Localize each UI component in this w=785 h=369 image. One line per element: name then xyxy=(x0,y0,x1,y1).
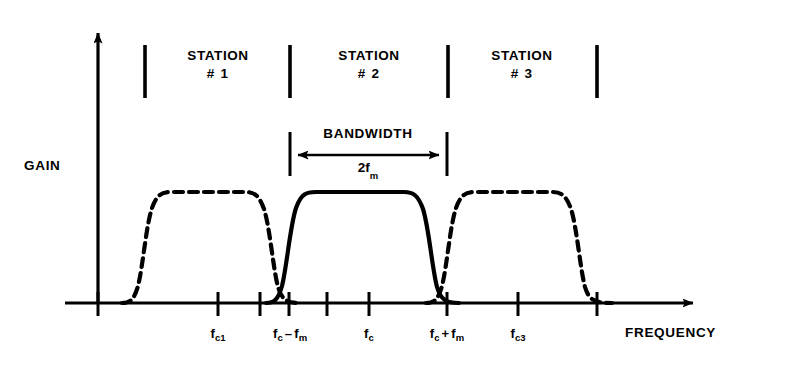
bandwidth-value-label: 2fm xyxy=(358,160,378,179)
station-1-number: # 1 xyxy=(187,66,248,82)
tick-fcmfm-sub2: m xyxy=(299,332,307,343)
tick-label-fc3: fc3 xyxy=(510,327,525,342)
station-1-name: STATION xyxy=(187,48,248,63)
tick-fc1-sub: c1 xyxy=(215,332,226,343)
tick-label-fc1: fc1 xyxy=(210,327,225,342)
tick-fc3-main: f xyxy=(510,326,515,341)
station-3-name: STATION xyxy=(491,48,552,63)
passband-curve-station-2 xyxy=(266,192,459,303)
station-label-3: STATION # 3 xyxy=(491,48,552,81)
tick-fcmfm-sub: c xyxy=(277,332,282,343)
tick-label-fc: fc xyxy=(364,327,374,342)
x-axis-label: FREQUENCY xyxy=(625,325,716,341)
passband-curve-station-3 xyxy=(426,192,612,303)
tick-fcmfm-operator: – xyxy=(283,326,294,341)
tick-fc3-sub: c3 xyxy=(515,332,526,343)
tick-fcpfm-sub2: m xyxy=(456,332,464,343)
bandwidth-title: BANDWIDTH xyxy=(323,126,413,142)
station-label-1: STATION # 1 xyxy=(187,48,248,81)
tick-fcpfm-main: f xyxy=(430,326,435,341)
bandwidth-value-main: 2f xyxy=(358,160,370,175)
station-label-2: STATION # 2 xyxy=(338,48,399,81)
tick-fcpfm-sub: c xyxy=(434,332,439,343)
bandwidth-value-subscript: m xyxy=(370,170,378,181)
y-axis-label: GAIN xyxy=(24,158,61,174)
tick-label-fc-minus-fm: fc–fm xyxy=(273,327,307,342)
tick-fc1-main: f xyxy=(210,326,215,341)
tick-label-fc-plus-fm: fc+fm xyxy=(430,327,465,342)
passband-curve-station-1 xyxy=(122,192,300,303)
tick-fcmfm-main: f xyxy=(273,326,278,341)
station-2-name: STATION xyxy=(338,48,399,63)
frequency-spectrum-figure: GAIN FREQUENCY STATION # 1 STATION # 2 S… xyxy=(0,0,785,369)
station-3-number: # 3 xyxy=(491,66,552,82)
tick-fc-main: f xyxy=(364,326,369,341)
tick-fc-sub: c xyxy=(369,332,374,343)
station-2-number: # 2 xyxy=(338,66,399,82)
tick-fcpfm-operator: + xyxy=(440,326,452,341)
